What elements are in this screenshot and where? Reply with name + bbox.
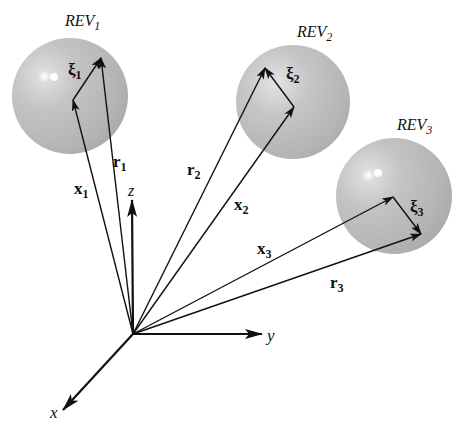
x3-vector-arrow [133,197,393,334]
rev2-label: REV2 [296,23,332,44]
r3-vector-arrow [133,234,421,334]
sphere-rev3 [336,138,452,254]
rev3-label: REV3 [396,116,432,137]
z-axis-label: z [127,182,135,199]
x2-label: x2 [234,195,249,217]
sphere-rev3-body [336,138,452,254]
sphere-rev2-body [236,45,350,159]
r2-label: r2 [187,160,201,182]
x3-label: x3 [257,239,272,261]
r1-label: r1 [113,152,127,174]
z-axis-arrow [132,200,133,334]
sphere-rev1-highlight [50,73,58,81]
r3-label: r3 [330,273,344,295]
x2-vector-arrow [133,107,294,334]
sphere-rev2 [236,45,350,159]
x-axis-label: x [49,403,58,422]
r2-vector-arrow [133,68,265,334]
coordinate-axes [63,200,262,410]
rev-position-diagram: z y x REV1 REV2 REV3 x1 r1 ξ1 x2 r2 ξ2 x… [0,0,469,429]
sphere-rev3-highlight [374,169,382,177]
x1-label: x1 [74,179,89,201]
x-axis-arrow [63,334,133,410]
y-axis-label: y [265,326,275,345]
rev1-label: REV1 [64,12,100,33]
